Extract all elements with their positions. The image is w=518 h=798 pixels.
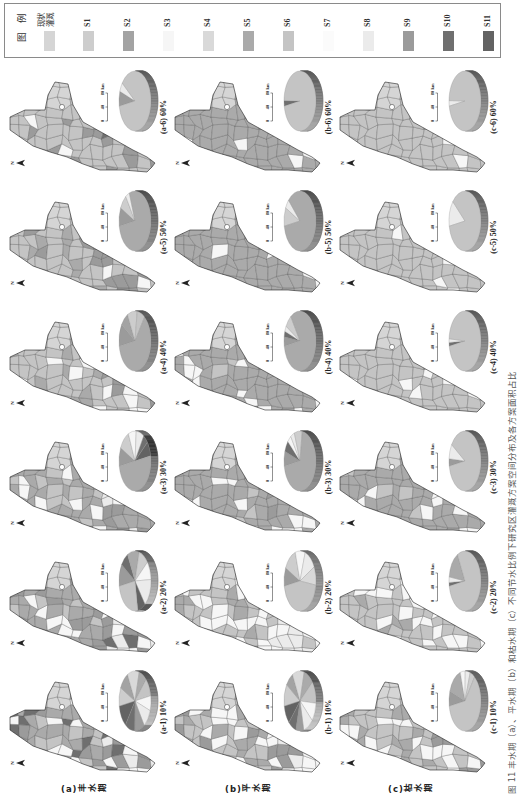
district	[343, 509, 357, 518]
district	[5, 87, 17, 100]
district	[388, 404, 403, 417]
district	[335, 404, 347, 417]
district	[409, 758, 423, 767]
legend-item-s2: S2	[121, 2, 135, 57]
district	[14, 169, 26, 177]
pie-chart	[119, 671, 158, 731]
district	[24, 645, 37, 657]
district	[388, 524, 403, 537]
district	[178, 688, 193, 699]
district	[178, 197, 194, 208]
north-arrow-icon: N	[10, 160, 25, 166]
district	[170, 376, 185, 389]
district	[235, 686, 248, 699]
north-arrow-icon: N	[175, 160, 190, 166]
district	[189, 516, 202, 529]
district	[355, 748, 365, 757]
panel-c-3: N04080km(c-3) 30%	[335, 417, 503, 537]
district	[5, 256, 20, 269]
district	[170, 437, 181, 448]
district	[82, 574, 96, 590]
district	[344, 769, 356, 777]
district	[270, 344, 281, 357]
district	[83, 766, 93, 777]
city-marker-icon	[224, 104, 229, 109]
district	[290, 735, 301, 747]
district	[248, 406, 258, 417]
district	[28, 317, 39, 328]
district	[366, 165, 380, 177]
district	[5, 364, 20, 378]
district	[212, 395, 228, 410]
scale-tick-label: 0	[430, 360, 435, 362]
legend-label: S5	[243, 19, 253, 27]
district	[201, 765, 215, 777]
district	[377, 168, 393, 177]
scale-unit: km	[265, 563, 270, 569]
scale-tick-label: 0	[100, 360, 105, 362]
district	[343, 389, 357, 398]
district	[244, 206, 259, 216]
district	[134, 137, 151, 150]
district	[105, 116, 118, 127]
district	[223, 635, 237, 649]
district	[443, 734, 458, 745]
district	[24, 285, 37, 297]
panel-label: (a-4) 40%	[159, 297, 168, 417]
district	[344, 169, 356, 177]
district	[47, 635, 63, 650]
district	[399, 366, 414, 380]
district	[35, 396, 48, 409]
panel-label: (a-5) 50%	[159, 177, 168, 297]
pie-chart	[449, 191, 488, 251]
district	[278, 727, 293, 735]
district	[200, 276, 213, 289]
district	[170, 504, 184, 518]
scale-tick-label: 80	[265, 91, 270, 95]
north-label: N	[175, 401, 180, 405]
district	[245, 468, 261, 479]
district	[278, 494, 293, 505]
scale-tick-label: 40	[100, 225, 105, 229]
district	[170, 364, 185, 378]
district	[335, 99, 347, 107]
district	[343, 677, 359, 688]
panel-c-5: N04080km(c-5) 50%	[335, 177, 503, 297]
district	[335, 604, 350, 618]
district	[223, 515, 237, 529]
scale-tick-label: 40	[100, 585, 105, 589]
district	[234, 644, 249, 657]
district	[47, 755, 63, 770]
north-arrow-icon: N	[340, 160, 355, 166]
district	[354, 645, 367, 657]
district	[146, 499, 159, 511]
district	[435, 104, 446, 117]
district	[223, 395, 237, 409]
district	[355, 148, 365, 157]
district	[134, 257, 151, 270]
north-label: N	[10, 401, 15, 405]
district	[335, 736, 350, 749]
district	[193, 197, 204, 208]
district	[399, 126, 414, 140]
district	[354, 285, 367, 297]
district	[235, 677, 247, 687]
district	[179, 409, 191, 417]
district	[354, 636, 367, 649]
district	[453, 385, 469, 396]
district	[125, 495, 136, 507]
district	[290, 375, 301, 387]
district	[409, 638, 423, 647]
panel-graphic: N04080km	[170, 177, 338, 297]
legend-item-current: 现状灌溉	[42, 2, 56, 57]
pie-chart	[119, 71, 158, 131]
district	[455, 615, 466, 627]
district	[400, 437, 412, 447]
district	[388, 635, 402, 649]
district	[170, 644, 182, 657]
scale-bar: 04080km	[430, 83, 438, 122]
panel-c-6: N04080km(c-6) 60%	[335, 57, 503, 177]
district	[192, 207, 204, 217]
district	[125, 735, 136, 747]
district	[69, 644, 84, 657]
